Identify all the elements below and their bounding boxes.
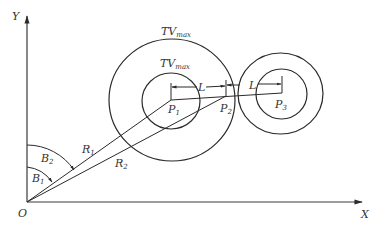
r1-label: R1	[81, 143, 95, 157]
r2-line	[27, 96, 226, 202]
p3-label: P3	[274, 98, 287, 112]
inner-tvmax-circle	[142, 73, 200, 129]
b1-label: B1	[31, 172, 45, 186]
x-axis-label: X	[360, 208, 370, 221]
y-axis-label: Y	[12, 10, 21, 23]
l2-label: L	[248, 79, 256, 92]
p2-label: P2	[219, 102, 232, 116]
diagram-canvas: Y O X TVmax TVmax P1 P2 P3 L L R1 R2 B2 …	[0, 0, 381, 227]
outer-tvmax-label: TVmax	[161, 25, 191, 39]
b2-label: B2	[40, 152, 54, 166]
geometry-diagram: Y O X TVmax TVmax P1 P2 P3 L L R1 R2 B2 …	[0, 0, 381, 227]
r1-line	[27, 100, 171, 202]
inner-tvmax-label: TVmax	[160, 57, 190, 71]
r2-label: R2	[114, 157, 128, 171]
p1-label: P1	[167, 103, 180, 117]
l1-arrow-right	[206, 86, 225, 87]
l1-label: L	[197, 81, 205, 94]
origin-label: O	[18, 207, 27, 220]
